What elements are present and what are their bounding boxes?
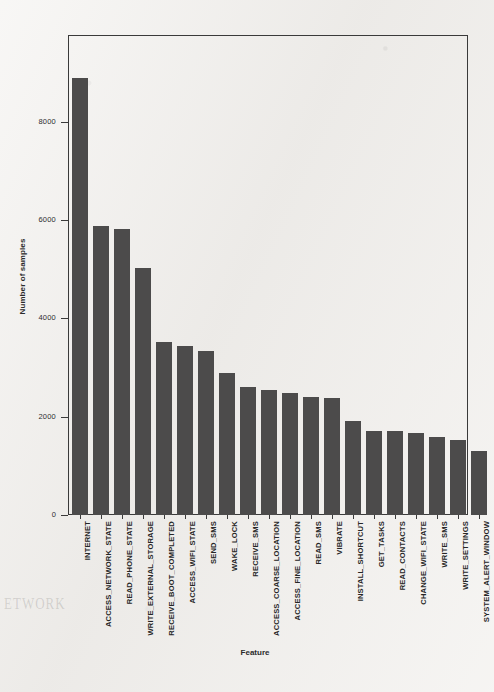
bar-slot	[153, 36, 174, 515]
y-axis-tick	[61, 122, 68, 123]
x-axis-ticks	[69, 515, 467, 520]
y-axis-tick-label: 0	[16, 510, 56, 519]
x-axis-tick	[416, 515, 417, 519]
x-axis-tick-label: CHANGE_WIFI_STATE	[419, 521, 428, 605]
bar-slot	[426, 36, 447, 515]
bar-slot	[468, 36, 489, 515]
x-axis-tick	[479, 515, 480, 519]
x-axis-tick-label: VIBRATE	[335, 521, 344, 555]
x-axis-tick-label: WRITE_SETTINGS	[461, 521, 470, 590]
bar-slot	[216, 36, 237, 515]
bar	[303, 397, 319, 515]
bar	[93, 226, 109, 515]
x-axis-tick	[311, 515, 312, 519]
bar-slot	[321, 36, 342, 515]
bar-slot	[258, 36, 279, 515]
x-axis-tick	[143, 515, 144, 519]
x-axis-tick-labels: INTERNETACCESS_NETWORK_STATEREAD_PHONE_S…	[69, 521, 467, 646]
x-axis-tick	[248, 515, 249, 519]
x-axis-tick	[164, 515, 165, 519]
y-axis-tick-label: 6000	[16, 215, 56, 224]
bar	[240, 387, 256, 515]
y-axis-tick	[61, 220, 68, 221]
x-axis-tick-label: INTERNET	[83, 521, 92, 560]
bar	[345, 421, 361, 515]
x-axis-tick-label: READ_CONTACTS	[398, 521, 407, 590]
bar	[72, 78, 88, 515]
bar	[219, 373, 235, 515]
x-axis-tick	[332, 515, 333, 519]
x-axis-tick-label: WRITE_SMS	[440, 521, 449, 568]
x-axis-tick-label: ACCESS_COARSE_LOCATION	[272, 521, 281, 636]
bar	[282, 393, 298, 515]
bar-slot	[111, 36, 132, 515]
bar	[114, 229, 130, 515]
x-axis-tick	[437, 515, 438, 519]
x-axis-tick-label: ACCESS_WIFI_STATE	[188, 521, 197, 603]
bar	[261, 390, 277, 515]
bar-slot	[384, 36, 405, 515]
x-axis-tick	[269, 515, 270, 519]
bar-slot	[405, 36, 426, 515]
x-axis-tick	[122, 515, 123, 519]
x-axis-tick-label: ACCESS_NETWORK_STATE	[104, 521, 113, 627]
y-axis-tick-label: 4000	[16, 313, 56, 322]
x-axis-tick	[458, 515, 459, 519]
bar-slot	[237, 36, 258, 515]
x-axis-tick	[227, 515, 228, 519]
x-axis-tick	[206, 515, 207, 519]
x-axis-tick	[101, 515, 102, 519]
x-axis-tick-label: READ_PHONE_STATE	[125, 521, 134, 604]
x-axis-tick-label: ACCESS_FINE_LOCATION	[293, 521, 302, 620]
bar	[198, 351, 214, 515]
bar-slot	[342, 36, 363, 515]
bar	[366, 431, 382, 516]
x-axis-tick-label: READ_SMS	[314, 521, 323, 564]
bar	[471, 451, 487, 515]
bar	[177, 346, 193, 515]
x-axis-tick	[395, 515, 396, 519]
bar-series	[69, 36, 467, 515]
x-axis-tick	[374, 515, 375, 519]
y-axis-tick	[61, 318, 68, 319]
x-axis-tick	[185, 515, 186, 519]
bar-slot	[132, 36, 153, 515]
x-axis-title: Feature	[205, 648, 305, 657]
bar-slot	[447, 36, 468, 515]
bar	[324, 398, 340, 515]
bar	[135, 268, 151, 515]
bar	[156, 342, 172, 515]
bar-slot	[69, 36, 90, 515]
bar-chart-figure: Number of samples 02000400060008000 INTE…	[0, 0, 494, 692]
x-axis-tick-label: SEND_SMS	[209, 521, 218, 564]
bar-slot	[279, 36, 300, 515]
bar	[387, 431, 403, 515]
x-axis-tick	[353, 515, 354, 519]
x-axis-tick-label: WRITE_EXTERNAL_STORAGE	[146, 521, 155, 636]
bar	[450, 440, 466, 515]
x-axis-tick-label: RECEIVE_BOOT_COMPLETED	[167, 521, 176, 636]
bar-slot	[195, 36, 216, 515]
x-axis-tick	[290, 515, 291, 519]
x-axis-tick-label: SYSTEM_ALERT_WINDOW	[482, 521, 491, 622]
x-axis-tick-label: GET_TASKS	[377, 521, 386, 567]
y-axis-tick-label: 8000	[16, 117, 56, 126]
y-axis-tick	[61, 417, 68, 418]
x-axis-tick	[80, 515, 81, 519]
bar-slot	[300, 36, 321, 515]
y-axis-tick-label: 2000	[16, 412, 56, 421]
bar-slot	[90, 36, 111, 515]
y-axis-tick	[61, 515, 68, 516]
bar-slot	[174, 36, 195, 515]
x-axis-tick-label: WAKE_LOCK	[230, 521, 239, 571]
bar	[408, 433, 424, 515]
x-axis-tick-label: INSTALL_SHORTCUT	[356, 521, 365, 601]
bar	[429, 437, 445, 515]
x-axis-tick-label: RECEIVE_SMS	[251, 521, 260, 577]
bar-slot	[363, 36, 384, 515]
